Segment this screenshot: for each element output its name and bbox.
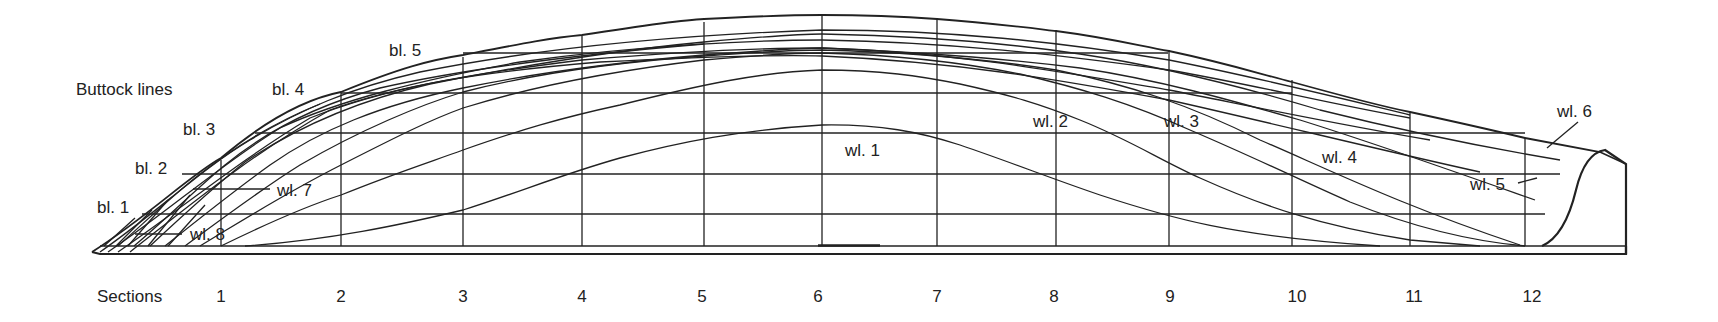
section-9-label: 9 <box>1165 288 1174 305</box>
wl5-label: wl. 5 <box>1470 176 1505 193</box>
wl7-curve <box>134 44 704 246</box>
wl8-label: wl. 8 <box>190 226 225 243</box>
wl5-leader <box>1518 178 1537 183</box>
wl1-curve <box>245 125 1380 246</box>
sections-label: Sections <box>97 288 162 305</box>
section-3-label: 3 <box>458 288 467 305</box>
section-2-label: 2 <box>336 288 345 305</box>
buttock-curve-a <box>100 30 1410 252</box>
bl3-label: bl. 3 <box>183 121 215 138</box>
section-1-label: 1 <box>216 288 225 305</box>
buttock-curve-d <box>130 56 1480 252</box>
wl6-label: wl. 6 <box>1557 103 1592 120</box>
keel-bottom-line <box>92 246 1626 254</box>
bl2-label: bl. 2 <box>135 160 167 177</box>
buttock-curve-c <box>118 48 1430 252</box>
hull-profile-drawing <box>0 0 1718 322</box>
buttock-lines-title: Buttock lines <box>76 81 172 98</box>
wl4-label: wl. 4 <box>1322 149 1357 166</box>
wl7-label: wl. 7 <box>277 182 312 199</box>
section-6-label: 6 <box>813 288 822 305</box>
section-8-label: 8 <box>1049 288 1058 305</box>
section-4-label: 4 <box>577 288 586 305</box>
wl1-label: wl. 1 <box>845 142 880 159</box>
bl1-label: bl. 1 <box>97 199 129 216</box>
wl2-label: wl. 2 <box>1033 113 1068 130</box>
section-10-label: 10 <box>1288 288 1307 305</box>
bl4-label: bl. 4 <box>272 81 304 98</box>
wl3-label: wl. 3 <box>1164 113 1199 130</box>
section-5-label: 5 <box>697 288 706 305</box>
section-7-label: 7 <box>932 288 941 305</box>
stern-transom <box>1542 150 1626 254</box>
section-11-label: 11 <box>1405 288 1423 305</box>
buttock-curve-b <box>108 40 1410 252</box>
bl5-label: bl. 5 <box>389 42 421 59</box>
section-12-label: 12 <box>1523 288 1542 305</box>
